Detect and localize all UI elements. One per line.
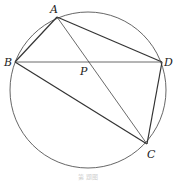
label-b: B	[3, 56, 12, 69]
circumcircle	[10, 12, 166, 168]
geometry-figure: A B C D P	[0, 0, 176, 183]
segment-ab	[15, 17, 57, 62]
label-c: C	[147, 148, 156, 161]
label-d: D	[163, 56, 173, 69]
label-p: P	[79, 65, 88, 78]
label-a: A	[49, 3, 58, 16]
figure-caption: 第 题图	[0, 172, 176, 181]
segment-cd	[147, 62, 162, 144]
